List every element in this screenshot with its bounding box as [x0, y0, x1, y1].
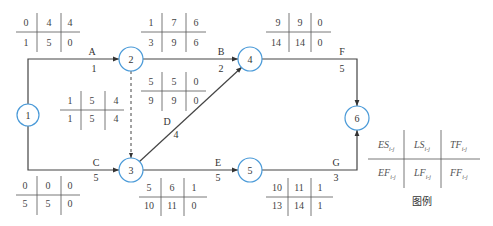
svg-text:14: 14: [295, 37, 305, 48]
param-table-f: 9 9 0 14 14 0: [266, 13, 331, 52]
svg-text:5: 5: [90, 95, 95, 106]
legend: ESi-j LSi-j TFi-j EFi-j LFi-j FFi-j 图例: [368, 130, 480, 207]
svg-text:7: 7: [172, 17, 177, 28]
svg-text:4: 4: [114, 113, 119, 124]
activity-e-label: E: [215, 157, 221, 168]
svg-text:14: 14: [294, 200, 304, 211]
svg-text:0: 0: [46, 180, 51, 191]
node-4: 4: [238, 47, 262, 71]
node-3: 3: [119, 158, 143, 182]
legend-tf: TFi-j: [450, 139, 467, 152]
param-table-dummy: 1 5 4 1 5 4: [60, 91, 124, 130]
svg-text:6: 6: [355, 113, 360, 124]
svg-text:1: 1: [68, 95, 73, 106]
activity-c-arrow: [28, 126, 119, 170]
param-table-c: 0 0 0 5 5 0: [16, 176, 80, 215]
activity-f-duration: 5: [340, 63, 345, 74]
svg-text:1: 1: [318, 200, 323, 211]
activity-c-label: C: [93, 157, 100, 168]
activity-f-label: F: [339, 46, 345, 57]
svg-text:5: 5: [46, 198, 51, 209]
activity-a-label: A: [88, 46, 96, 57]
node-1: 1: [17, 104, 39, 126]
svg-text:0: 0: [68, 198, 73, 209]
svg-text:1: 1: [318, 182, 323, 193]
svg-text:9: 9: [172, 37, 177, 48]
svg-text:5: 5: [172, 76, 177, 87]
svg-text:11: 11: [294, 182, 304, 193]
svg-text:9: 9: [276, 17, 281, 28]
activity-g-arrow: [262, 130, 357, 170]
svg-text:6: 6: [194, 37, 199, 48]
node-2: 2: [119, 47, 143, 71]
svg-text:1: 1: [26, 110, 31, 121]
svg-text:1: 1: [68, 113, 73, 124]
svg-text:5: 5: [248, 165, 253, 176]
svg-text:9: 9: [298, 17, 303, 28]
param-table-g: 10 11 1 13 14 1: [266, 178, 333, 216]
activity-d-arrow: [139, 67, 242, 162]
svg-text:0: 0: [194, 95, 199, 106]
svg-text:0: 0: [318, 17, 323, 28]
svg-text:5: 5: [47, 37, 52, 48]
activity-d-label: D: [163, 116, 170, 127]
legend-ef: EFi-j: [377, 167, 396, 180]
svg-text:1: 1: [24, 37, 29, 48]
svg-text:13: 13: [272, 200, 282, 211]
svg-text:3: 3: [149, 37, 154, 48]
svg-text:3: 3: [129, 165, 134, 176]
node-5: 5: [238, 158, 262, 182]
svg-text:0: 0: [23, 180, 28, 191]
svg-text:0: 0: [68, 180, 73, 191]
activity-g-duration: 3: [334, 172, 339, 183]
svg-text:5: 5: [147, 182, 152, 193]
legend-lf: LFi-j: [413, 167, 431, 180]
svg-text:0: 0: [194, 76, 199, 87]
svg-text:6: 6: [170, 182, 175, 193]
activity-e-duration: 5: [216, 172, 221, 183]
svg-text:0: 0: [192, 200, 197, 211]
svg-text:0: 0: [68, 37, 73, 48]
svg-text:4: 4: [114, 95, 119, 106]
svg-text:0: 0: [24, 17, 29, 28]
svg-text:14: 14: [271, 37, 281, 48]
svg-text:1: 1: [192, 182, 197, 193]
svg-text:4: 4: [68, 17, 73, 28]
svg-text:9: 9: [149, 95, 154, 106]
activity-b-label: B: [218, 46, 225, 57]
param-table-e: 5 6 1 10 11 0: [139, 178, 207, 216]
svg-text:9: 9: [172, 95, 177, 106]
svg-text:10: 10: [144, 200, 154, 211]
svg-text:10: 10: [272, 182, 282, 193]
activity-g-label: G: [332, 157, 339, 168]
svg-text:4: 4: [47, 17, 52, 28]
legend-ff: FFi-j: [449, 167, 468, 180]
activity-c-duration: 5: [94, 172, 99, 183]
param-table-b: 1 7 6 3 9 6: [141, 13, 206, 52]
svg-text:0: 0: [318, 37, 323, 48]
svg-text:5: 5: [90, 113, 95, 124]
activity-d-duration: 4: [174, 129, 179, 140]
svg-text:2: 2: [129, 54, 134, 65]
legend-es: ESi-j: [377, 139, 395, 152]
activity-a-duration: 1: [92, 63, 97, 74]
svg-text:4: 4: [248, 54, 253, 65]
svg-text:11: 11: [167, 200, 177, 211]
network-diagram: A 1 B 2 C 5 D 4 E 5 F 5 G 3 1 2 3 4 5 6 …: [0, 0, 493, 226]
svg-text:1: 1: [149, 17, 154, 28]
param-table-a: 0 4 4 1 5 0: [16, 13, 80, 52]
activity-b-duration: 2: [219, 63, 224, 74]
svg-text:5: 5: [149, 76, 154, 87]
node-6: 6: [345, 106, 369, 130]
svg-text:5: 5: [23, 198, 28, 209]
param-table-d: 5 5 0 9 9 0: [141, 72, 206, 111]
svg-text:6: 6: [194, 17, 199, 28]
legend-ls: LSi-j: [413, 139, 430, 152]
legend-caption: 图例: [412, 195, 432, 207]
